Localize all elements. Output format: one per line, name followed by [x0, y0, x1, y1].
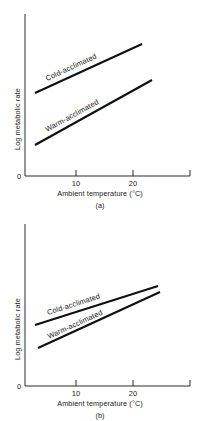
x-axis-title-a: Ambient temperature (°C)	[0, 189, 200, 198]
x-tick-label-10-a: 10	[72, 179, 80, 188]
origin-label-b: 0	[17, 382, 21, 391]
x-axis-title-b: Ambient temperature (°C)	[0, 399, 200, 408]
series-label-warm-acclimated-a: Warm-acclimated	[44, 97, 101, 133]
chart-panel-b: 10 20 0 Cold-acclimated Warm-acclimated …	[0, 210, 200, 420]
x-tick-label-20-b: 20	[129, 389, 137, 398]
plot-area-a: 10 20 0 Cold-acclimated Warm-acclimated	[0, 0, 200, 210]
axis-lines-b	[25, 224, 190, 386]
panel-caption-b: (b)	[0, 411, 200, 420]
plot-area-b: 10 20 0 Cold-acclimated Warm-acclimated	[0, 210, 200, 420]
y-axis-title-a: Log metabolic rate	[13, 88, 22, 150]
chart-panel-a: 10 20 0 Cold-acclimated Warm-acclimated …	[0, 0, 200, 210]
x-tick-label-10-b: 10	[72, 389, 80, 398]
series-line-cold-acclimated-a	[35, 44, 142, 93]
figure-container: 10 20 0 Cold-acclimated Warm-acclimated …	[0, 0, 200, 421]
origin-label-a: 0	[17, 172, 21, 181]
series-line-warm-acclimated-a	[35, 80, 152, 145]
x-tick-label-20-a: 20	[129, 179, 137, 188]
y-axis-title-b: Log metabolic rate	[13, 298, 22, 360]
axis-lines-a	[25, 14, 190, 176]
panel-caption-a: (a)	[0, 201, 200, 210]
